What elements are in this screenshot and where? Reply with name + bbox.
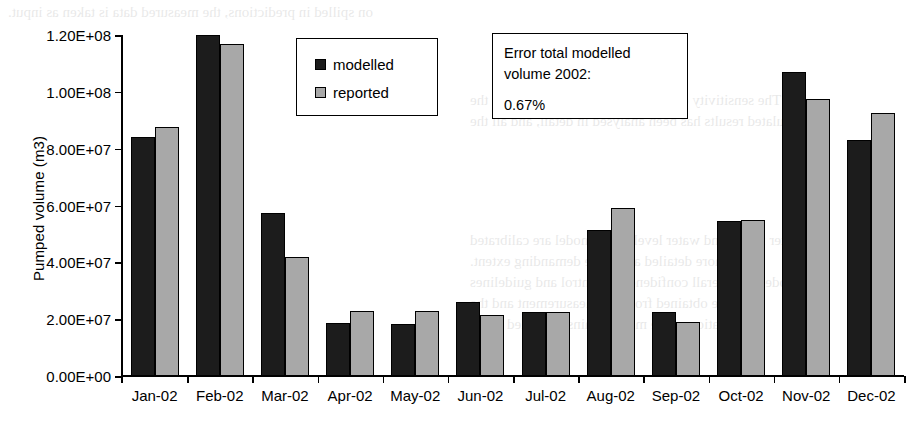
legend-item-reported: reported xyxy=(315,78,437,106)
y-tick-label-2: 4.00E+07 xyxy=(46,254,111,271)
x-tick-origin xyxy=(121,376,123,383)
annotation-error-value: 0.67% xyxy=(504,95,687,116)
bar-reported-May-02 xyxy=(415,311,439,376)
x-axis-label-Dec-02: Dec-02 xyxy=(847,387,895,404)
y-tick-label-0: 0.00E+00 xyxy=(46,368,111,385)
y-tick-1: 2.00E+07 xyxy=(115,319,122,321)
bar-modelled-Jul-02 xyxy=(522,312,546,376)
y-tick-5: 1.00E+08 xyxy=(115,92,122,94)
x-axis-label-Jun-02: Jun-02 xyxy=(457,387,503,404)
bar-modelled-Jan-02 xyxy=(131,137,155,376)
y-tick-label-5: 1.00E+08 xyxy=(46,83,111,100)
x-tick-7 xyxy=(643,376,645,383)
bar-modelled-Apr-02 xyxy=(326,323,350,376)
x-tick-11 xyxy=(904,376,906,383)
x-tick-9 xyxy=(774,376,776,383)
bar-reported-Nov-02 xyxy=(806,99,830,376)
bar-modelled-Dec-02 xyxy=(847,140,871,376)
bar-reported-Aug-02 xyxy=(611,208,635,376)
legend-swatch-modelled-icon xyxy=(315,59,326,70)
bar-group xyxy=(774,35,839,376)
x-axis-label-May-02: May-02 xyxy=(390,387,440,404)
legend-label-modelled: modelled xyxy=(333,56,394,73)
x-axis-label-Sep-02: Sep-02 xyxy=(652,387,700,404)
x-tick-6 xyxy=(578,376,580,383)
x-tick-4 xyxy=(448,376,450,383)
x-axis-label-Nov-02: Nov-02 xyxy=(782,387,830,404)
x-axis-label-Oct-02: Oct-02 xyxy=(719,387,764,404)
annotation-spacer xyxy=(504,85,687,95)
legend-item-modelled: modelled xyxy=(315,50,437,78)
bar-reported-Mar-02 xyxy=(285,257,309,376)
y-tick-6: 1.20E+08 xyxy=(115,35,122,37)
y-tick-label-3: 6.00E+07 xyxy=(46,197,111,214)
bar-modelled-Aug-02 xyxy=(587,230,611,376)
x-tick-3 xyxy=(383,376,385,383)
bar-modelled-May-02 xyxy=(391,324,415,376)
x-axis-label-Apr-02: Apr-02 xyxy=(328,387,373,404)
bar-modelled-Mar-02 xyxy=(261,213,285,376)
y-tick-2: 4.00E+07 xyxy=(115,262,122,264)
chart-legend: modelled reported xyxy=(296,38,438,116)
x-axis-label-Jul-02: Jul-02 xyxy=(525,387,566,404)
y-tick-4: 8.00E+07 xyxy=(115,149,122,151)
annotation-line-1: Error total modelled xyxy=(504,43,687,64)
bar-modelled-Jun-02 xyxy=(456,302,480,376)
bar-modelled-Feb-02 xyxy=(196,35,220,376)
x-axis-label-Aug-02: Aug-02 xyxy=(587,387,635,404)
y-tick-3: 6.00E+07 xyxy=(115,206,122,208)
x-tick-1 xyxy=(252,376,254,383)
bar-group xyxy=(709,35,774,376)
x-axis-label-Mar-02: Mar-02 xyxy=(261,387,309,404)
y-tick-label-1: 2.00E+07 xyxy=(46,311,111,328)
bar-modelled-Oct-02 xyxy=(717,221,741,376)
x-tick-2 xyxy=(318,376,320,383)
x-tick-10 xyxy=(839,376,841,383)
bar-modelled-Nov-02 xyxy=(782,72,806,376)
bar-reported-Dec-02 xyxy=(871,113,895,376)
bar-reported-Sep-02 xyxy=(676,322,700,376)
legend-swatch-reported-icon xyxy=(315,87,326,98)
x-tick-8 xyxy=(709,376,711,383)
bar-modelled-Sep-02 xyxy=(652,312,676,376)
bar-reported-Feb-02 xyxy=(220,44,244,376)
bar-group xyxy=(122,35,187,376)
x-axis-label-Feb-02: Feb-02 xyxy=(196,387,244,404)
y-tick-label-6: 1.20E+08 xyxy=(46,27,111,44)
bar-reported-Jan-02 xyxy=(155,127,179,376)
x-axis-label-Jan-02: Jan-02 xyxy=(132,387,178,404)
bar-reported-Oct-02 xyxy=(741,220,765,376)
bar-chart-figure: Pumped volume (m3) 0.00E+002.00E+074.00E… xyxy=(0,0,923,433)
bar-reported-Jul-02 xyxy=(546,312,570,376)
x-tick-0 xyxy=(187,376,189,383)
bar-group xyxy=(839,35,904,376)
x-tick-5 xyxy=(513,376,515,383)
y-axis-title: Pumped volume (m3) xyxy=(30,79,47,339)
legend-label-reported: reported xyxy=(333,84,389,101)
annotation-line-2: volume 2002: xyxy=(504,64,687,85)
y-tick-label-4: 8.00E+07 xyxy=(46,140,111,157)
error-annotation-box: Error total modelled volume 2002: 0.67% xyxy=(492,33,688,119)
bar-reported-Jun-02 xyxy=(480,315,504,376)
bar-reported-Apr-02 xyxy=(350,311,374,376)
bar-group xyxy=(187,35,252,376)
